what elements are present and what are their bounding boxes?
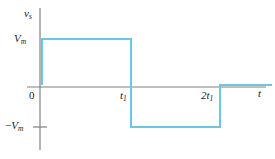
x-axis-label: t — [258, 88, 261, 99]
waveform-trace — [42, 39, 272, 127]
plot-canvas — [0, 0, 275, 159]
x-tick-label-t1: t1 — [120, 90, 127, 101]
y-tick-vm-subscript: m — [21, 37, 26, 46]
x-tick-origin-text: 0 — [29, 89, 35, 101]
x-axis-label-text: t — [258, 87, 261, 99]
x-tick-label-origin: 0 — [29, 90, 35, 101]
y-tick-label-neg-vm: −Vm — [5, 120, 23, 131]
y-tick-vm-text: V — [14, 32, 21, 44]
y-tick-label-vm: Vm — [14, 33, 26, 44]
x-tick-2t1-text: 2t — [201, 89, 210, 101]
y-axis-label: vs — [24, 8, 32, 19]
x-tick-label-2t1: 2t1 — [201, 90, 213, 101]
x-tick-2t1-subscript: 1 — [210, 94, 214, 103]
y-axis-label-subscript: s — [29, 12, 32, 21]
x-tick-t1-subscript: 1 — [123, 94, 127, 103]
y-tick-neg-vm-text: V — [11, 119, 18, 131]
y-tick-neg-vm-subscript: m — [18, 124, 23, 133]
square-wave-figure: vs t Vm −Vm 0 t1 2t1 — [0, 0, 275, 159]
